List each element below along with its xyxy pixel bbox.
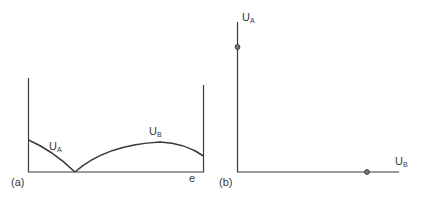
curve-ua-label: UA [49, 141, 62, 153]
panel-a-figure [28, 78, 204, 172]
point-on-ua-axis [235, 45, 240, 50]
panel-b-tag: (b) [219, 177, 232, 188]
panel-b-figure [235, 22, 399, 174]
curve-ub [75, 142, 204, 172]
point-on-ub-axis [365, 170, 370, 175]
diagram-canvas [0, 0, 423, 205]
curve-ub-label: UB [149, 126, 162, 138]
panel-b-ua-axis-label: UA [242, 12, 255, 24]
panel-a-tag: (a) [11, 177, 24, 188]
panel-a-x-axis-label: e [189, 173, 195, 184]
panel-b-ub-axis-label: UB [395, 156, 408, 168]
